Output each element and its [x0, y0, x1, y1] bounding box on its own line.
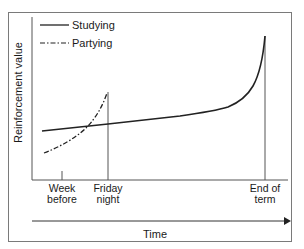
legend-partying-label: Partying	[72, 37, 112, 49]
tick-end-of-term: End of term	[243, 183, 287, 205]
tick-friday-night-line2: night	[88, 194, 128, 205]
tick-week-before: Week before	[42, 183, 82, 205]
studying-line	[42, 36, 265, 131]
tick-friday-night: Friday night	[88, 183, 128, 205]
partying-line	[44, 93, 107, 153]
tick-end-of-term-line2: term	[243, 194, 287, 205]
legend-studying-label: Studying	[72, 19, 115, 31]
x-axis-label: Time	[130, 229, 180, 240]
y-axis-label: Reinforcement value	[12, 47, 24, 143]
tick-week-before-line2: before	[42, 194, 82, 205]
chart-canvas	[0, 0, 304, 249]
time-arrow-head-icon	[284, 217, 291, 225]
